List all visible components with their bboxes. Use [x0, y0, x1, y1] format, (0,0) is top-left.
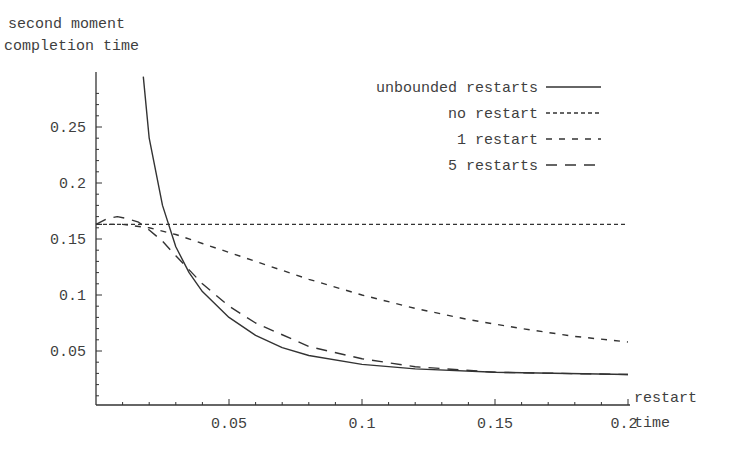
series-1-restart — [96, 224, 628, 342]
y-tick-label: 0.15 — [50, 232, 86, 249]
y-tick-label: 0.05 — [50, 344, 86, 361]
y-axis-title-line2: completion time — [4, 38, 139, 55]
legend-label: 5 restarts — [448, 158, 538, 175]
series-unbounded-restarts — [143, 77, 628, 375]
x-axis-title-line1: restart — [634, 390, 697, 407]
axes: 0.050.10.150.20.250.050.10.150.2 — [50, 72, 638, 433]
y-tick-label: 0.2 — [59, 176, 86, 193]
x-axis-title-line2: time — [634, 415, 670, 432]
y-axis-title-line1: second moment — [8, 16, 125, 33]
y-tick-label: 0.1 — [59, 288, 86, 305]
y-tick-label: 0.25 — [50, 120, 86, 137]
legend-label: unbounded restarts — [376, 80, 538, 97]
x-tick-label: 0.15 — [477, 416, 513, 433]
chart: 0.050.10.150.20.250.050.10.150.2 unbound… — [0, 0, 753, 458]
legend: unbounded restartsno restart1 restart5 r… — [376, 80, 601, 175]
x-tick-label: 0.05 — [211, 416, 247, 433]
x-tick-label: 0.1 — [348, 416, 375, 433]
legend-label: no restart — [448, 106, 538, 123]
series-lines — [96, 77, 628, 375]
legend-label: 1 restart — [457, 132, 538, 149]
